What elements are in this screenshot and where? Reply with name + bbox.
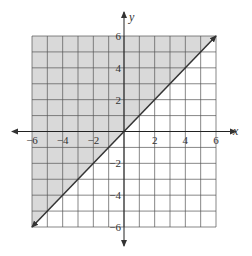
y-tick-label: −4 bbox=[109, 189, 121, 201]
y-tick-label: 6 bbox=[116, 30, 122, 42]
y-tick-label: −6 bbox=[109, 221, 121, 233]
y-axis-label: y bbox=[128, 10, 135, 24]
x-tick-label: −2 bbox=[87, 134, 99, 146]
y-tick-label: 4 bbox=[116, 62, 122, 74]
x-axis-label: x bbox=[232, 124, 239, 138]
x-tick-label: 2 bbox=[152, 134, 158, 146]
x-tick-label: 4 bbox=[183, 134, 189, 146]
x-tick-label: −6 bbox=[26, 134, 38, 146]
inequality-graph: −6−4−2246642−2−4−6 x y bbox=[0, 0, 252, 256]
y-tick-label: 2 bbox=[116, 94, 122, 106]
x-tick-label: 6 bbox=[213, 134, 219, 146]
x-tick-label: −4 bbox=[57, 134, 69, 146]
y-tick-label: −2 bbox=[109, 157, 121, 169]
